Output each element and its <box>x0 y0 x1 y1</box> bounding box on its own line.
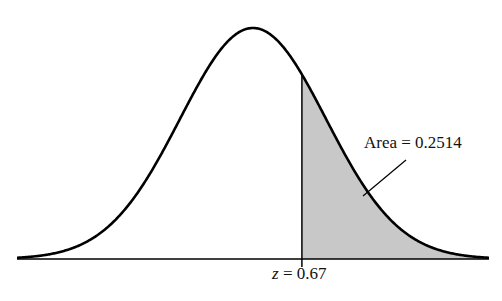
z-value: = 0.67 <box>279 264 327 283</box>
z-variable: z <box>272 264 279 283</box>
z-value-label: z = 0.67 <box>272 264 326 284</box>
area-label: Area = 0.2514 <box>364 133 462 153</box>
shaded-tail-area <box>302 74 489 259</box>
area-leader-line <box>363 160 406 196</box>
